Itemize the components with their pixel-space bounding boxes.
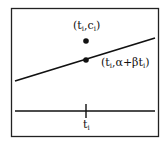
observed-point-label: (ti,ci) [73, 19, 100, 33]
observed-point [83, 38, 89, 44]
fitted-point-label: (ti,α+βti) [101, 56, 149, 70]
regression-diagram: (ti,ci) (ti,α+βti) ti [0, 0, 167, 147]
fitted-point [83, 57, 89, 63]
axis-tick-label: ti [83, 118, 90, 132]
